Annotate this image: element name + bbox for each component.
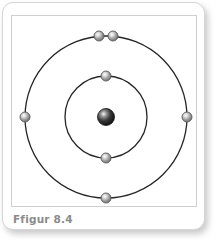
outer-electron-top-right: [108, 31, 118, 41]
inner-electron-bottom: [101, 153, 111, 163]
inner-electron-top: [101, 71, 111, 81]
figure-card: Ffigur 8.4: [2, 2, 205, 230]
nucleus: [98, 109, 115, 126]
outer-electron-left: [20, 112, 30, 122]
outer-electron-bottom: [101, 193, 111, 203]
figure-caption: Ffigur 8.4: [13, 213, 193, 225]
bohr-atom-diagram: [12, 16, 197, 207]
outer-electron-top-left: [94, 31, 104, 41]
figure-plate: [11, 15, 197, 207]
outer-electron-right: [182, 112, 192, 122]
